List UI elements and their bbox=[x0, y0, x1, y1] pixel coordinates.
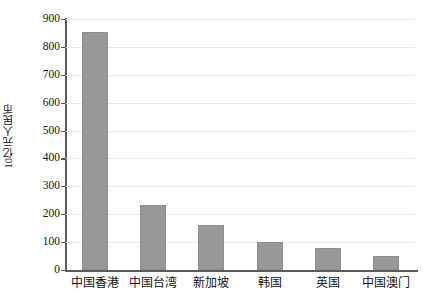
y-tick-mark bbox=[61, 242, 65, 243]
y-tick-mark bbox=[61, 158, 65, 159]
y-tick-label: 300 bbox=[16, 180, 60, 192]
bar bbox=[257, 242, 283, 270]
gridline bbox=[66, 103, 415, 104]
y-tick-label: 100 bbox=[16, 236, 60, 248]
y-tick-label: 400 bbox=[16, 152, 60, 164]
bar bbox=[373, 256, 399, 271]
y-tick-label: 200 bbox=[16, 208, 60, 220]
y-tick-label: 600 bbox=[16, 97, 60, 109]
bar bbox=[82, 32, 108, 270]
y-tick-mark bbox=[61, 19, 65, 20]
y-tick-label: 900 bbox=[16, 13, 60, 25]
gridline bbox=[66, 186, 415, 187]
y-tick-mark bbox=[61, 47, 65, 48]
bar bbox=[315, 248, 341, 270]
x-tick-label: 中国台湾 bbox=[124, 276, 182, 290]
y-tick-mark bbox=[61, 131, 65, 132]
y-tick-label: 500 bbox=[16, 125, 60, 137]
y-tick-label: 800 bbox=[16, 41, 60, 53]
y-tick-mark bbox=[61, 103, 65, 104]
y-tick-mark bbox=[61, 214, 65, 215]
y-tick-mark bbox=[61, 270, 65, 271]
gridline bbox=[66, 242, 415, 243]
plot-area bbox=[66, 19, 415, 270]
x-tick-label: 韩国 bbox=[241, 276, 299, 290]
x-tick-label: 中国澳门 bbox=[357, 276, 415, 290]
bar bbox=[198, 225, 224, 270]
gridline bbox=[66, 47, 415, 48]
gridline bbox=[66, 19, 415, 20]
y-tick-mark bbox=[61, 186, 65, 187]
x-tick-label: 英国 bbox=[299, 276, 357, 290]
bar bbox=[140, 205, 166, 271]
y-axis-title: 10亿元人民币 bbox=[0, 0, 16, 271]
y-tick-mark bbox=[61, 75, 65, 76]
x-axis-line bbox=[65, 270, 418, 272]
y-tick-label: 0 bbox=[16, 264, 60, 276]
y-axis-title-text: 10亿元人民币 bbox=[1, 103, 16, 169]
x-tick-label: 新加坡 bbox=[182, 276, 240, 290]
gridline bbox=[66, 131, 415, 132]
x-tick-label: 中国香港 bbox=[66, 276, 124, 290]
y-tick-label: 700 bbox=[16, 69, 60, 81]
gridline bbox=[66, 75, 415, 76]
gridline bbox=[66, 158, 415, 159]
bar-chart: 10亿元人民币 0100200300400500600700800900中国香港… bbox=[0, 0, 423, 302]
gridline bbox=[66, 214, 415, 215]
